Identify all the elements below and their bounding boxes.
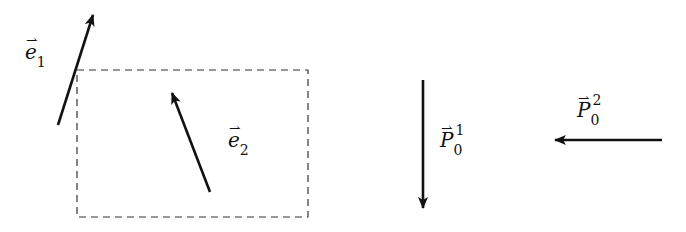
vector-e1-arrow: [58, 15, 93, 125]
vector-arrow-accent: ⇀: [26, 33, 38, 47]
vector-arrow-accent: ⇀: [229, 121, 241, 135]
label-e2: ⇀e2: [228, 130, 249, 150]
vector-arrow-accent: ⇀: [578, 91, 590, 105]
label-p0-1: ⇀P01: [440, 130, 464, 150]
label-e1: ⇀e1: [25, 42, 46, 62]
vector-e2-arrow: [172, 93, 210, 192]
vector-arrow-accent: ⇀: [441, 121, 453, 135]
label-p0-2: ⇀P02: [577, 100, 601, 120]
